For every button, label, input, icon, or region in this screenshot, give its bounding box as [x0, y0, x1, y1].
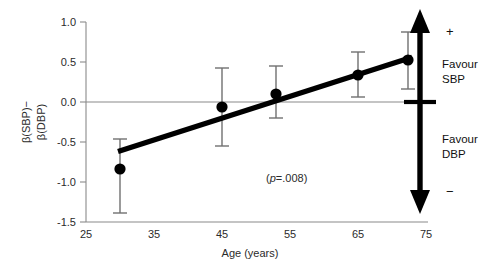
- y-tick-label-5: -1.0: [57, 176, 76, 188]
- chart-figure: 1.0 0.5 0.0 -0.5 -1.0 -1.5 25 35 45 55 6…: [0, 0, 480, 268]
- x-tick-label-1: 25: [80, 228, 92, 240]
- p-value-symbol: p: [269, 172, 276, 184]
- y-axis-title: β(SBP)− β(DBP): [20, 101, 47, 143]
- favour-dbp-label-line1: Favour: [442, 133, 478, 145]
- p-value-annotation: (p=.008): [266, 172, 307, 184]
- y-tick-label-3: 0.0: [61, 96, 76, 108]
- x-tick-label-4: 55: [284, 228, 296, 240]
- x-ticks-group: 25 35 45 55 65 75: [80, 228, 432, 240]
- axes-group: [86, 22, 428, 222]
- y-ticks-group: 1.0 0.5 0.0 -0.5 -1.0 -1.5: [57, 16, 86, 228]
- chart-svg: 1.0 0.5 0.0 -0.5 -1.0 -1.5 25 35 45 55 6…: [0, 0, 480, 268]
- favour-dbp-label-line2: DBP: [442, 148, 466, 160]
- error-bars-group: [113, 32, 415, 213]
- y-tick-label-2: 0.5: [61, 56, 76, 68]
- data-point-marker: [114, 163, 125, 174]
- regression-fit-line: [118, 57, 412, 151]
- y-tick-label-1: 1.0: [61, 16, 76, 28]
- positive-sign-label: +: [446, 24, 454, 39]
- favour-scale-arrow: [404, 9, 436, 214]
- y-axis-title-line1: β(SBP)−: [20, 101, 32, 143]
- data-point-marker: [216, 101, 227, 112]
- x-tick-label-6: 75: [420, 228, 432, 240]
- data-point-marker: [270, 88, 281, 99]
- x-tick-label-5: 65: [352, 228, 364, 240]
- x-tick-label-2: 35: [148, 228, 160, 240]
- y-tick-label-6: -1.5: [57, 216, 76, 228]
- data-point-marker: [402, 54, 413, 65]
- x-tick-label-3: 45: [216, 228, 228, 240]
- arrow-head-up-icon: [410, 9, 430, 33]
- favour-scale-labels: + Favour SBP Favour DBP −: [442, 24, 478, 199]
- p-value-suffix: =.008): [276, 172, 308, 184]
- x-axis-title: Age (years): [222, 247, 279, 259]
- y-tick-label-4: -0.5: [57, 136, 76, 148]
- favour-sbp-label-line2: SBP: [442, 73, 465, 85]
- negative-sign-label: −: [446, 184, 454, 199]
- y-axis-title-line2: β(DBP): [35, 104, 47, 140]
- arrow-head-down-icon: [410, 190, 430, 214]
- data-point-marker: [352, 69, 363, 80]
- favour-sbp-label-line1: Favour: [442, 58, 478, 70]
